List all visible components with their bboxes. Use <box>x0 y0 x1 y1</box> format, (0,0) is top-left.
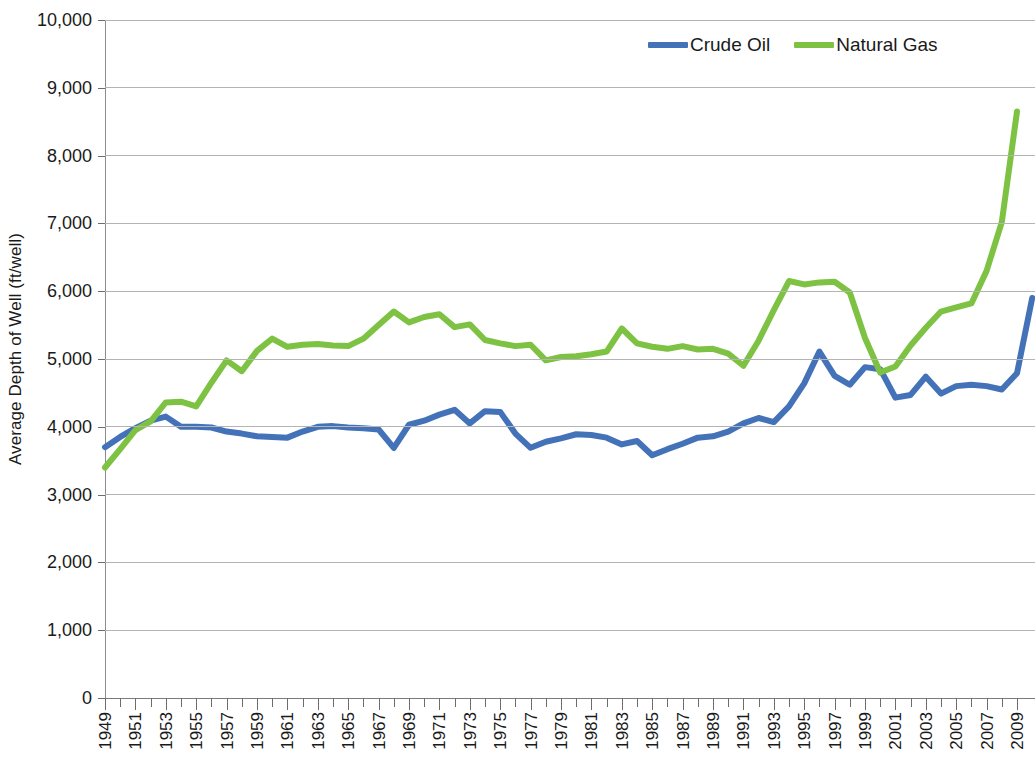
x-axis-tick-mark <box>759 698 760 707</box>
y-axis-tick-mark <box>98 156 105 157</box>
x-axis-tick-label: 1989 <box>704 712 724 750</box>
x-axis-tick-mark <box>394 698 395 707</box>
y-axis-tick-mark <box>98 20 105 21</box>
x-axis-tick-label: 1975 <box>491 712 511 750</box>
x-axis-tick-label: 2005 <box>947 712 967 750</box>
x-axis-tick-mark <box>439 698 440 710</box>
gridline <box>105 426 1035 427</box>
x-axis-tick-label: 1971 <box>430 712 450 750</box>
x-axis-tick-label: 1969 <box>400 712 420 750</box>
y-axis-tick-label: 8,000 <box>47 145 92 166</box>
x-axis-tick-label: 1987 <box>674 712 694 750</box>
x-axis-tick-mark <box>576 698 577 707</box>
y-axis-tick-mark <box>98 562 105 563</box>
y-axis-tick-label: 5,000 <box>47 349 92 370</box>
x-axis-tick-label: 1963 <box>309 712 329 750</box>
x-axis-tick-mark <box>379 698 380 710</box>
x-axis-tick-label: 1951 <box>126 712 146 750</box>
x-axis-tick-mark <box>971 698 972 707</box>
gridline <box>105 291 1035 292</box>
x-axis-tick-mark <box>333 698 334 707</box>
x-axis-tick-mark <box>743 698 744 710</box>
y-axis-tick-mark <box>98 291 105 292</box>
gridline <box>105 494 1035 495</box>
x-axis-tick-mark <box>774 698 775 710</box>
x-axis-ticks <box>105 698 1035 710</box>
x-axis-tick-label: 1959 <box>248 712 268 750</box>
y-axis-tick-label: 1,000 <box>47 620 92 641</box>
x-axis-tick-mark <box>515 698 516 707</box>
x-axis-tick-mark <box>835 698 836 710</box>
y-axis-tick-mark <box>98 427 105 428</box>
y-axis-tick-mark <box>98 630 105 631</box>
series-line-natural-gas <box>105 112 1017 468</box>
x-axis-tick-mark <box>287 698 288 710</box>
x-axis-tick-mark <box>318 698 319 710</box>
x-axis-tick-label: 1997 <box>826 712 846 750</box>
x-axis-tick-mark <box>500 698 501 710</box>
x-axis-tick-label: 1965 <box>339 712 359 750</box>
x-axis-tick-mark <box>637 698 638 707</box>
legend-label-natural-gas: Natural Gas <box>836 35 937 54</box>
x-axis-tick-mark <box>683 698 684 710</box>
x-axis-tick-mark <box>789 698 790 707</box>
x-axis-tick-mark <box>607 698 608 707</box>
y-axis-tick-label: 6,000 <box>47 281 92 302</box>
gridline <box>105 87 1035 88</box>
x-axis-tick-mark <box>151 698 152 707</box>
gridline <box>105 562 1035 563</box>
series-line-crude-oil <box>105 298 1032 455</box>
x-axis-tick-mark <box>941 698 942 707</box>
y-axis-tick-mark <box>98 88 105 89</box>
y-axis-tick-label: 4,000 <box>47 416 92 437</box>
x-axis-tick-mark <box>227 698 228 710</box>
x-axis-tick-label: 1991 <box>734 712 754 750</box>
x-axis-tick-mark <box>196 698 197 710</box>
x-axis-tick-mark <box>242 698 243 707</box>
x-axis-tick-mark <box>895 698 896 710</box>
x-axis-tick-mark <box>1017 698 1018 710</box>
x-axis-tick-mark <box>804 698 805 710</box>
x-axis-tick-label: 1953 <box>157 712 177 750</box>
x-axis-tick-mark <box>591 698 592 710</box>
gridline <box>105 359 1035 360</box>
x-axis-tick-label: 2009 <box>1008 712 1028 750</box>
x-axis-tick-mark <box>622 698 623 710</box>
gridline <box>105 630 1035 631</box>
x-axis-tick-label: 1999 <box>856 712 876 750</box>
x-axis-tick-labels: 1949195119531955195719591961196319651967… <box>105 712 1035 759</box>
x-axis-tick-label: 2003 <box>917 712 937 750</box>
x-axis-tick-mark <box>105 698 106 710</box>
x-axis-tick-mark <box>303 698 304 707</box>
gridline <box>105 223 1035 224</box>
y-axis-tick-label: 3,000 <box>47 484 92 505</box>
y-axis-tick-mark <box>98 359 105 360</box>
x-axis-tick-label: 1967 <box>370 712 390 750</box>
x-axis-tick-mark <box>120 698 121 707</box>
plot-area <box>105 0 1035 698</box>
y-axis-tick-label: 7,000 <box>47 213 92 234</box>
x-axis-tick-mark <box>850 698 851 707</box>
x-axis-tick-mark <box>652 698 653 710</box>
legend-item-natural-gas: Natural Gas <box>794 35 937 54</box>
x-axis-tick-mark <box>455 698 456 707</box>
chart-legend: Crude Oil Natural Gas <box>648 35 938 54</box>
x-axis-tick-mark <box>561 698 562 710</box>
series-layer <box>105 0 1035 698</box>
x-axis-tick-mark <box>728 698 729 707</box>
x-axis-tick-label: 1985 <box>643 712 663 750</box>
x-axis-tick-mark <box>926 698 927 710</box>
x-axis-tick-mark <box>363 698 364 707</box>
x-axis-tick-mark <box>880 698 881 707</box>
x-axis-tick-mark <box>713 698 714 710</box>
legend-swatch-crude-oil <box>648 42 688 48</box>
x-axis-tick-mark <box>911 698 912 707</box>
x-axis-tick-mark <box>424 698 425 707</box>
x-axis-tick-mark <box>1002 698 1003 707</box>
x-axis-tick-label: 1949 <box>96 712 116 750</box>
line-chart: Average Depth of Well (ft/well) 10,0009,… <box>0 0 1035 759</box>
legend-swatch-natural-gas <box>794 42 834 48</box>
x-axis-tick-label: 1981 <box>582 712 602 750</box>
y-axis-tick-mark <box>98 698 105 699</box>
x-axis-tick-mark <box>272 698 273 707</box>
